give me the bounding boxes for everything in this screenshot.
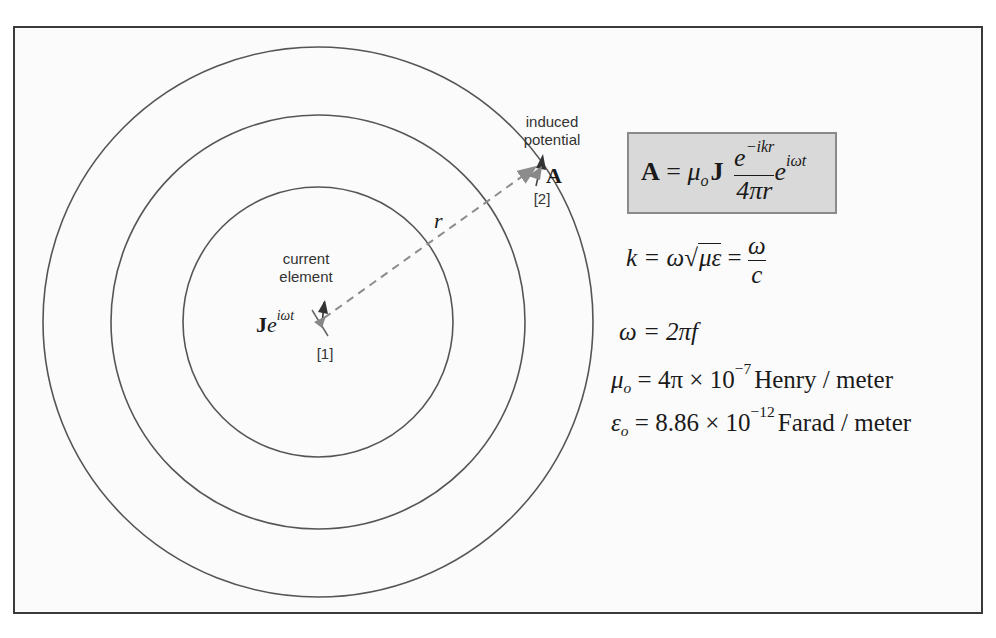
eps0-sub: o — [621, 422, 629, 439]
A-point-label: A — [546, 163, 562, 189]
source-current-label: Jeiωt — [256, 312, 294, 338]
sqrt-content: με — [698, 243, 721, 271]
mu0-symbol: μ — [611, 366, 624, 393]
eq-J: J — [711, 157, 724, 186]
eq-equals: = — [666, 157, 681, 186]
k-eq1: = ω — [637, 244, 684, 271]
k-eq2: = — [721, 244, 748, 271]
eq-fraction: e−ikr 4πr — [734, 144, 774, 205]
eps0-unit: Farad / meter — [778, 409, 911, 436]
source-exp: iωt — [277, 308, 294, 323]
eq-tail-exp: iωt — [786, 152, 806, 169]
induced-potential-label-line1: induced — [512, 113, 592, 131]
mu0-unit: Henry / meter — [754, 366, 893, 393]
eq-A: A — [641, 157, 660, 186]
eq-mu-sub: o — [701, 172, 709, 189]
omega-equation: ω = 2πf — [619, 318, 698, 346]
current-element-label: current element — [266, 250, 346, 286]
mu0-equation: μo = 4π × 10−7Henry / meter — [611, 366, 893, 394]
eps0-exp: −12 — [751, 403, 775, 420]
point-2-label: [2] — [522, 190, 562, 208]
k-frac-den: c — [748, 262, 766, 288]
source-e: e — [267, 312, 277, 337]
eq-numerator: e−ikr — [734, 144, 774, 174]
eps0-equation: εo = 8.86 × 10−12Farad / meter — [611, 409, 911, 437]
eq-tail-base: e — [774, 157, 786, 186]
current-element-label-line2: element — [266, 268, 346, 286]
eq-num-base: e — [734, 143, 746, 172]
induced-potential-label: induced potential — [512, 113, 592, 149]
vector-potential-equation: A = μoJ e−ikr 4πr eiωt — [641, 144, 806, 205]
induced-potential-label-line2: potential — [512, 131, 592, 149]
point-1-label: [1] — [305, 345, 345, 363]
mu0-exp: −7 — [735, 360, 752, 377]
eq-num-exp: −ikr — [746, 138, 775, 155]
eq-denominator: 4πr — [734, 177, 774, 204]
mu0-mid: = 4π × 10 — [631, 366, 734, 393]
k-fraction: ω c — [748, 233, 766, 289]
mu0-sub: o — [624, 379, 632, 396]
eps0-mid: = 8.86 × 10 — [629, 409, 751, 436]
source-J: J — [256, 312, 267, 337]
k-frac-num: ω — [748, 233, 766, 259]
r-label: r — [434, 208, 443, 234]
eq-mu: μ — [687, 157, 700, 186]
k-symbol: k — [626, 244, 637, 271]
wavenumber-equation: k = ω√με = ω c — [626, 233, 766, 289]
sqrt-sign: √ — [684, 244, 698, 271]
vector-potential-equation-box: A = μoJ e−ikr 4πr eiωt — [627, 132, 837, 214]
current-element-label-line1: current — [266, 250, 346, 268]
concentric-wavefront-diagram — [0, 0, 996, 638]
eps0-symbol: ε — [611, 409, 621, 436]
r-vector-dashed-arrow — [324, 168, 534, 318]
